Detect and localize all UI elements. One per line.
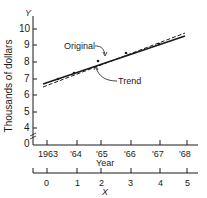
y-tick-label-7: 7 <box>24 74 30 84</box>
x-axis-letter: X <box>102 187 108 197</box>
x-tick-4: 4 <box>158 178 163 188</box>
y-tick-label-6: 6 <box>24 90 30 100</box>
y-axis-letter: Y <box>25 8 31 18</box>
y-tick-label-4: 4 <box>24 123 30 133</box>
y-tick-label-10: 10 <box>19 24 30 34</box>
y-tick-label-0: 0 <box>24 139 30 149</box>
x-coded-ticks <box>33 168 187 173</box>
trend-annotation: Trend <box>118 76 141 86</box>
y-tick-label-5: 5 <box>24 107 30 117</box>
trend-chart <box>0 0 207 198</box>
year-tick-66: '66 <box>124 149 136 159</box>
y-tick-label-9: 9 <box>24 40 30 50</box>
x-tick-5: 5 <box>185 178 190 188</box>
trend-leader <box>96 68 117 81</box>
year-tick-1963: 1963 <box>38 149 58 159</box>
y-axis-title: Thousands of dollars <box>4 40 14 133</box>
year-tick-67: '67 <box>152 149 164 159</box>
year-tick-68: '68 <box>179 149 191 159</box>
original-annotation: Original <box>64 41 95 51</box>
year-axis-title: Year <box>96 158 114 168</box>
x-tick-0: 0 <box>44 178 49 188</box>
x-tick-1: 1 <box>75 178 80 188</box>
y-tick-label-8: 8 <box>24 57 30 67</box>
year-tick-64: '64 <box>70 149 82 159</box>
x-tick-3: 3 <box>128 178 133 188</box>
year-ticks <box>47 140 187 145</box>
y-ticks <box>33 29 37 128</box>
